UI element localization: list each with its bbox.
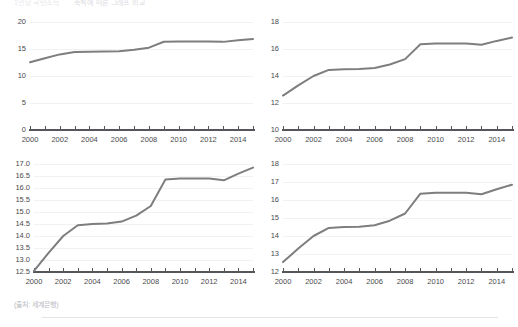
- line-chart-0: 0510152020002002200420062008201020122014: [0, 8, 259, 152]
- y-axis-tick-label: 17.0: [15, 159, 30, 168]
- y-axis-tick-label: 5: [22, 98, 26, 107]
- x-axis-tick-label: 2006: [113, 277, 130, 286]
- x-axis-tick-label: 2008: [142, 277, 159, 286]
- y-axis-tick-label: 16: [271, 44, 279, 53]
- y-axis-tick-label: 15.0: [15, 207, 30, 216]
- y-axis-tick-label: 13.5: [15, 243, 30, 252]
- x-axis-tick-label: 2000: [275, 135, 292, 144]
- x-axis-tick-label: 2002: [51, 135, 68, 144]
- x-axis-tick-label: 2012: [200, 135, 217, 144]
- x-axis-tick-label: 2004: [84, 277, 101, 286]
- y-axis-tick-label: 13.0: [15, 255, 30, 264]
- y-axis-tick-label: 14: [271, 71, 279, 80]
- y-axis-tick-label: 14: [271, 231, 279, 240]
- y-axis-tick-label: 12: [271, 267, 279, 276]
- page-subtitle: 축척에 따른 그래프 비교: [74, 0, 145, 7]
- x-axis-tick-label: 2002: [55, 277, 72, 286]
- y-axis-tick-label: 14.0: [15, 231, 30, 240]
- y-axis-tick-label: 20: [18, 17, 26, 26]
- y-axis-tick-label: 16.5: [15, 171, 30, 180]
- x-axis-tick-label: 2008: [397, 135, 414, 144]
- series-line: [30, 39, 253, 62]
- x-axis-tick-label: 2014: [488, 135, 505, 144]
- y-axis-tick-label: 15: [271, 213, 279, 222]
- y-axis-tick-label: 15: [18, 44, 26, 53]
- x-axis-tick-label: 2000: [22, 135, 39, 144]
- x-axis-tick-label: 2004: [336, 135, 353, 144]
- y-axis-tick-label: 12: [271, 98, 279, 107]
- x-axis-tick-label: 2004: [336, 277, 353, 286]
- y-axis-tick-label: 10: [18, 71, 26, 80]
- x-axis-tick-label: 2014: [488, 277, 505, 286]
- x-axis-tick-label: 2004: [81, 135, 98, 144]
- x-axis-tick-label: 2010: [172, 277, 189, 286]
- line-chart-3: 1213141516171820002002200420062008201020…: [259, 152, 518, 296]
- y-axis-tick-label: 16: [271, 195, 279, 204]
- y-axis-tick-label: 10: [271, 125, 279, 134]
- x-axis-tick-label: 2006: [366, 277, 383, 286]
- x-axis-tick-label: 2000: [26, 277, 43, 286]
- page-title: 1인당 국민소득: [14, 0, 59, 7]
- y-axis-tick-label: 13: [271, 249, 279, 258]
- source-caption: (출처: 세계은행): [14, 299, 59, 309]
- x-axis-tick-label: 2012: [201, 277, 218, 286]
- x-axis-tick-label: 2010: [170, 135, 187, 144]
- line-chart-2: 12.513.013.514.014.515.015.516.016.517.0…: [0, 152, 259, 296]
- x-axis-tick-label: 2002: [305, 135, 322, 144]
- y-axis-tick-label: 18: [271, 159, 279, 168]
- x-axis-tick-label: 2014: [230, 277, 247, 286]
- x-axis-tick-label: 2012: [458, 277, 475, 286]
- x-axis-tick-label: 2010: [427, 135, 444, 144]
- y-axis-tick-label: 17: [271, 177, 279, 186]
- x-axis-tick-label: 2012: [458, 135, 475, 144]
- series-line: [283, 38, 512, 96]
- x-axis-tick-label: 2014: [230, 135, 247, 144]
- x-axis-tick-label: 2008: [397, 277, 414, 286]
- line-chart-1: 1012141618200020022004200620082010201220…: [259, 8, 518, 152]
- x-axis-tick-label: 2008: [141, 135, 158, 144]
- x-axis-tick-label: 2006: [111, 135, 128, 144]
- x-axis-tick-label: 2002: [305, 277, 322, 286]
- y-axis-tick-label: 12.5: [15, 267, 30, 276]
- y-axis-tick-label: 14.5: [15, 219, 30, 228]
- series-line: [283, 185, 512, 262]
- series-line: [34, 168, 253, 271]
- x-axis-tick-label: 2006: [366, 135, 383, 144]
- y-axis-tick-label: 18: [271, 17, 279, 26]
- y-axis-tick-label: 0: [22, 125, 26, 134]
- chart-grid: 0510152020002002200420062008201020122014…: [0, 8, 518, 296]
- y-axis-tick-label: 16.0: [15, 183, 30, 192]
- y-axis-tick-label: 15.5: [15, 195, 30, 204]
- footer-divider: [42, 317, 498, 318]
- x-axis-tick-label: 2010: [427, 277, 444, 286]
- x-axis-tick-label: 2000: [275, 277, 292, 286]
